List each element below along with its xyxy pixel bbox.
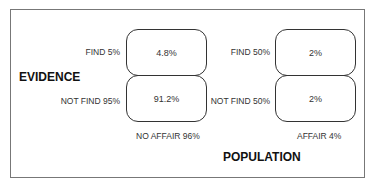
row-label-not-find: NOT FIND 50% [211,96,270,106]
row-label-find: FIND 50% [231,47,270,57]
cell-affair-find: 2% [275,29,356,76]
evidence-axis-label: EVIDENCE [19,70,80,84]
cell-no-affair-not-find: 91.2% [126,75,207,122]
group-label-no-affair: NO AFFAIR 96% [136,131,200,141]
population-axis-label: POPULATION [223,150,301,164]
cell-value: 91.2% [154,94,180,104]
row-label-find: FIND 5% [86,47,120,57]
group-label-affair: AFFAIR 4% [297,131,341,141]
cell-value: 4.8% [156,48,177,58]
row-label-not-find: NOT FIND 95% [61,96,120,106]
cell-value: 2% [309,94,322,104]
cell-affair-not-find: 2% [275,75,356,122]
cell-value: 2% [309,48,322,58]
cell-no-affair-find: 4.8% [126,29,207,76]
